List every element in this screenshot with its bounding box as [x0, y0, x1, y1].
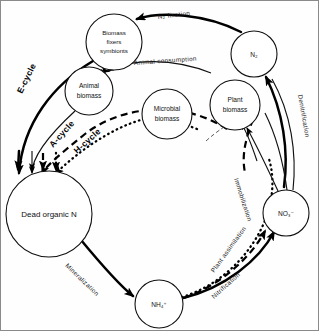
label-e-cycle: E-cycle — [15, 62, 38, 95]
node-nh4[interactable]: NH₄⁺ — [135, 280, 183, 328]
node-label: Animal — [79, 82, 100, 89]
node-label: Dead organic N — [21, 210, 77, 219]
node-label: biomass — [223, 106, 248, 113]
node-no3[interactable]: NO₃⁻ — [263, 190, 309, 236]
nitrogen-cycle-diagram: Biomass fixers symbionts N₂ Animal bioma… — [1, 1, 319, 331]
node-animal-biomass[interactable]: Animal biomass — [65, 67, 113, 115]
label-denitrification: Denitrification — [297, 94, 311, 138]
node-label: Microbial — [154, 105, 181, 112]
node-label: biomass — [77, 92, 102, 99]
diagram-frame: Biomass fixers symbionts N₂ Animal bioma… — [0, 0, 319, 331]
node-label: Plant — [227, 96, 242, 103]
node-label: Biomass — [102, 29, 126, 36]
node-n2[interactable]: N₂ — [231, 31, 277, 77]
node-label: N₂ — [250, 51, 258, 58]
node-label: symbionts — [100, 47, 128, 54]
node-label: NH₄⁺ — [151, 301, 167, 308]
node-plant-biomass[interactable]: Plant biomass — [210, 80, 260, 130]
node-microbial-biomass[interactable]: Microbial biomass — [142, 89, 192, 139]
node-label: fixers — [107, 38, 122, 45]
label-n2-fixation: N₂ fixation — [157, 9, 190, 20]
node-dead-organic-n[interactable]: Dead organic N — [6, 171, 92, 257]
label-plant-assimilation: Plant assimilation — [209, 225, 247, 274]
label-mineralization: Mineralization — [64, 262, 100, 298]
node-label: biomass — [155, 115, 180, 122]
node-label: NO₃⁻ — [278, 210, 295, 217]
label-immobilization: Immobilization — [233, 177, 254, 222]
dead-organic-inflow-arrows — [18, 151, 56, 170]
